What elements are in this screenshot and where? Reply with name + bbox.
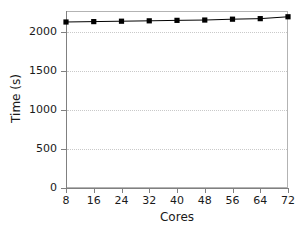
- x-tick-label: 32: [134, 195, 164, 206]
- y-tick-mark: [61, 32, 66, 33]
- x-tick-label: 64: [245, 195, 275, 206]
- y-axis-title: Time (s): [10, 59, 23, 139]
- y-tick-label: 1500: [29, 65, 57, 76]
- x-tick-label: 8: [51, 195, 81, 206]
- y-tick-mark: [61, 110, 66, 111]
- x-tick-mark: [66, 188, 67, 193]
- plot-area: [66, 11, 288, 188]
- x-tick-label: 16: [79, 195, 109, 206]
- x-tick-label: 24: [107, 195, 137, 206]
- gridline-y: [67, 110, 287, 111]
- gridline-y: [67, 71, 287, 72]
- x-tick-mark: [205, 188, 206, 193]
- y-tick-label: 1000: [29, 104, 57, 115]
- x-tick-label: 56: [218, 195, 248, 206]
- x-tick-mark: [149, 188, 150, 193]
- x-tick-mark: [94, 188, 95, 193]
- y-tick-mark: [61, 71, 66, 72]
- x-tick-mark: [288, 188, 289, 193]
- x-axis-title: Cores: [66, 211, 288, 224]
- x-tick-label: 72: [273, 195, 303, 206]
- x-tick-mark: [260, 188, 261, 193]
- y-tick-label: 0: [50, 182, 57, 193]
- x-tick-mark: [122, 188, 123, 193]
- chart-figure: 0500100015002000 81624324048566472 Cores…: [0, 0, 308, 232]
- y-tick-label: 2000: [29, 26, 57, 37]
- gridline-y: [67, 32, 287, 33]
- y-axis-spine: [66, 11, 67, 188]
- x-tick-label: 40: [162, 195, 192, 206]
- x-tick-mark: [233, 188, 234, 193]
- x-tick-mark: [177, 188, 178, 193]
- x-tick-label: 48: [190, 195, 220, 206]
- gridline-y: [67, 149, 287, 150]
- y-tick-mark: [61, 149, 66, 150]
- y-tick-label: 500: [36, 143, 57, 154]
